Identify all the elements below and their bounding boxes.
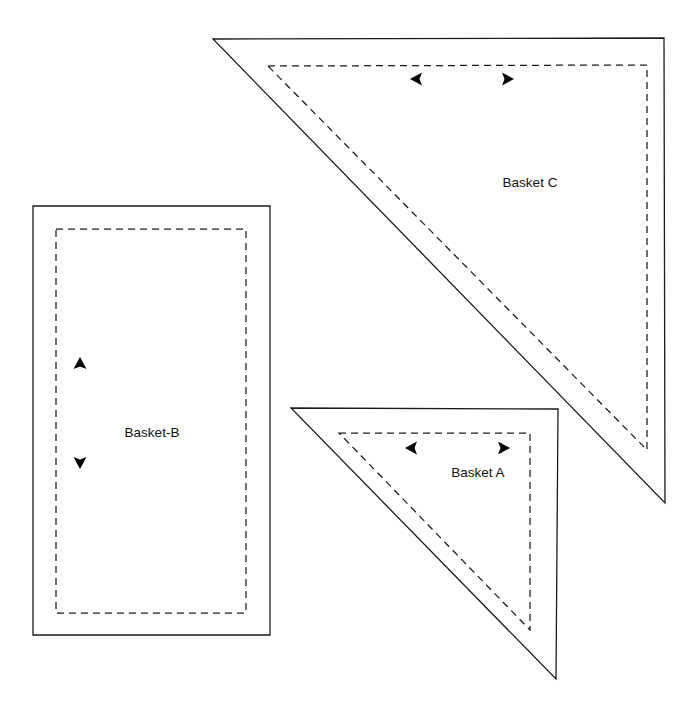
grain-arrow-right-basket-a <box>498 442 510 455</box>
pattern-canvas: Basket C Basket-B Basket A <box>0 0 700 718</box>
grain-arrow-left-basket-a <box>405 442 417 455</box>
grain-arrow-down-basket-b <box>74 457 87 469</box>
cut-line-basket-b <box>33 206 270 635</box>
pattern-drawing: Basket C Basket-B Basket A <box>0 0 700 718</box>
piece-label-basket-b: Basket-B <box>125 425 180 440</box>
piece-label-basket-a: Basket A <box>451 465 504 480</box>
piece-basket-b[interactable]: Basket-B <box>33 206 270 635</box>
seam-line-basket-a <box>339 433 530 630</box>
seam-line-basket-c <box>268 65 647 450</box>
cut-line-basket-a <box>291 408 558 679</box>
grain-arrow-up-basket-b <box>74 357 87 369</box>
piece-basket-a[interactable]: Basket A <box>291 408 558 679</box>
seam-line-basket-b <box>56 229 246 613</box>
piece-label-basket-c: Basket C <box>503 175 558 190</box>
grain-arrow-left-basket-c <box>410 73 422 86</box>
grain-arrow-right-basket-c <box>502 73 514 86</box>
